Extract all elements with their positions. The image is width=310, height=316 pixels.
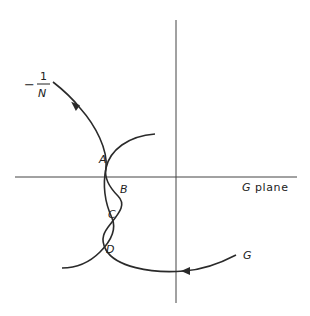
arrowhead-lower-icon [181,267,190,275]
g-plane-diagram: − 1 N A B C D G G plane [0,0,310,316]
label-fraction-denominator: N [38,87,46,100]
nyquist-curve-label: G [243,249,252,262]
point-label-a: A [98,153,107,166]
point-label-b: B [120,183,128,196]
label-fraction-numerator: 1 [40,70,47,83]
label-minus-sign: − [24,77,35,92]
plane-label-symbol: G [242,181,251,194]
point-label-c: C [108,208,116,221]
point-label-d: D [106,243,114,256]
plane-label-word: plane [255,181,289,194]
